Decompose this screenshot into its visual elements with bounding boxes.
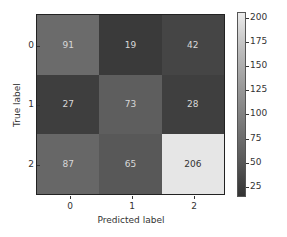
- cell-2-1: 65: [99, 134, 161, 194]
- colorbar-tick-100: 100: [250, 108, 267, 118]
- x-tick-0: 0: [64, 201, 76, 211]
- colorbar-tick-200: 200: [250, 12, 267, 22]
- cell-1-0: 27: [37, 75, 99, 135]
- cell-0-0: 91: [37, 15, 99, 75]
- colorbar-tick-25: 25: [250, 181, 261, 191]
- x-axis-label: Predicted label: [86, 215, 176, 225]
- colorbar-tick-150: 150: [250, 60, 267, 70]
- y-tick-0: 0: [22, 40, 34, 50]
- confusion-matrix: 91 19 42 27 73 28 87 65 206: [36, 14, 225, 195]
- cell-0-2: 42: [162, 15, 224, 75]
- cell-1-1: 73: [99, 75, 161, 135]
- colorbar-tick-175: 175: [250, 36, 267, 46]
- x-tick-1: 1: [126, 201, 138, 211]
- cell-2-2: 206: [162, 134, 224, 194]
- y-axis-label: True label: [12, 80, 22, 130]
- colorbar-tick-50: 50: [250, 157, 261, 167]
- cell-0-1: 19: [99, 15, 161, 75]
- y-tick-1: 1: [22, 99, 34, 109]
- colorbar-tick-75: 75: [250, 133, 261, 143]
- cell-2-0: 87: [37, 134, 99, 194]
- y-tick-2: 2: [22, 159, 34, 169]
- cell-1-2: 28: [162, 75, 224, 135]
- x-tick-2: 2: [188, 201, 200, 211]
- colorbar-tick-125: 125: [250, 84, 267, 94]
- colorbar: [237, 12, 246, 197]
